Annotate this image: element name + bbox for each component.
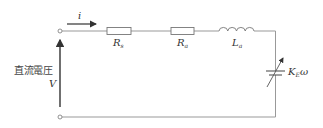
circuit-drawing bbox=[0, 0, 323, 128]
inductor-la-icon bbox=[219, 27, 254, 31]
source-symbol: V bbox=[49, 79, 56, 89]
top-terminal bbox=[58, 29, 62, 33]
bottom-terminal bbox=[58, 115, 62, 119]
kew-suffix: ω bbox=[300, 66, 308, 77]
rs-sub: s bbox=[121, 42, 124, 49]
circuit-diagram: i Rs Ra La KEω 直流電圧 V bbox=[0, 0, 323, 128]
kew-label: KEω bbox=[288, 67, 308, 78]
current-symbol: i bbox=[78, 10, 81, 21]
resistor-rs-icon bbox=[107, 28, 131, 35]
rs-base: R bbox=[113, 37, 121, 48]
source-label-jp: 直流電圧 bbox=[14, 66, 52, 76]
ra-base: R bbox=[177, 37, 185, 48]
current-label: i bbox=[78, 11, 81, 21]
rs-label: Rs bbox=[113, 38, 124, 49]
la-label: La bbox=[232, 38, 242, 49]
resistor-ra-icon bbox=[171, 28, 194, 35]
la-sub: a bbox=[239, 42, 243, 49]
la-base: L bbox=[232, 37, 239, 48]
ra-sub: a bbox=[185, 42, 189, 49]
ra-label: Ra bbox=[177, 38, 188, 49]
